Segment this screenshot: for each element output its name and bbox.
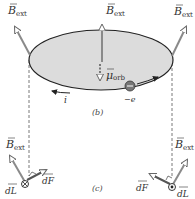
svg-text:B: B bbox=[7, 4, 16, 17]
svg-text:ext: ext bbox=[182, 11, 193, 19]
panel-b-label: (b) bbox=[92, 108, 103, 117]
svg-text:dF: dF bbox=[42, 176, 55, 186]
dl-label-left: dL bbox=[5, 184, 17, 196]
magnetic-moment-diagram: B ext B ext B ext μ orb −e i (b) (c) B e… bbox=[0, 0, 195, 199]
svg-text:ext: ext bbox=[183, 144, 194, 152]
svg-text:B: B bbox=[105, 4, 114, 17]
current-label: i bbox=[64, 95, 67, 105]
b-ext-arrow-bottom-right bbox=[172, 160, 187, 186]
dot-mark bbox=[171, 186, 174, 189]
right-angle-marker-right bbox=[166, 176, 172, 180]
electron-charge-label: −e bbox=[124, 95, 136, 104]
df-label-left: dF bbox=[42, 174, 55, 186]
svg-text:dF: dF bbox=[136, 183, 149, 193]
svg-text:B: B bbox=[174, 138, 183, 151]
current-arrow bbox=[52, 91, 70, 93]
b-ext-label-bottom-right: B ext bbox=[174, 138, 194, 152]
svg-text:B: B bbox=[5, 138, 14, 151]
svg-text:dL: dL bbox=[5, 186, 17, 196]
svg-text:orb: orb bbox=[113, 74, 126, 82]
b-ext-arrow-bottom-left bbox=[10, 156, 25, 182]
b-ext-label-center: B ext bbox=[105, 4, 125, 18]
b-ext-label-right: B ext bbox=[173, 5, 193, 19]
b-ext-label-left: B ext bbox=[7, 4, 27, 18]
svg-text:B: B bbox=[173, 5, 182, 18]
svg-text:ext: ext bbox=[16, 10, 27, 18]
svg-text:dL: dL bbox=[177, 189, 189, 199]
df-label-right: dF bbox=[136, 181, 149, 193]
svg-text:ext: ext bbox=[114, 10, 125, 18]
dl-label-right: dL bbox=[177, 187, 189, 199]
b-ext-label-bottom-left: B ext bbox=[5, 138, 25, 152]
panel-c-label: (c) bbox=[92, 184, 103, 193]
svg-text:ext: ext bbox=[14, 144, 25, 152]
df-arrow-bottom-right bbox=[150, 174, 170, 184]
b-ext-arrow-left bbox=[15, 27, 30, 55]
b-ext-arrow-right bbox=[172, 27, 186, 56]
